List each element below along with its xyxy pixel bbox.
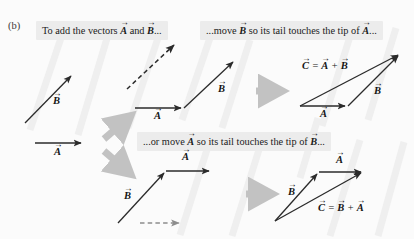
caption-move-b-vector-a: →A — [362, 24, 369, 37]
panel-given-vectors — [25, 76, 81, 143]
caption-move-b: ...move →B so its tail touches the tip o… — [200, 21, 383, 40]
caption-move-b-mid: so its tail touches the tip of — [246, 25, 362, 36]
vector-hat-icon: → — [362, 18, 370, 22]
vector-hat-icon: → — [320, 102, 328, 106]
flow-arrow-branch-down-icon — [104, 151, 126, 170]
vector-hat-icon: → — [321, 54, 329, 58]
flow-arrow-branch-up-icon — [104, 120, 126, 139]
label-b-result-top: →B — [374, 85, 381, 96]
caption-move-b-pre: ...move — [206, 25, 239, 36]
caption-move-b-vector-b: →B — [239, 24, 246, 37]
vector-b-given — [25, 76, 71, 123]
label-a-given: →A — [54, 146, 61, 157]
caption-add-vectors-pre: To add the vectors — [42, 25, 120, 36]
label-a-result-top: →A — [320, 108, 327, 119]
vector-b-original-dashed — [127, 45, 174, 89]
caption-move-a-mid: so its tail touches the tip of — [194, 136, 310, 147]
caption-move-a-vector-b: →B — [310, 135, 317, 148]
vector-hat-icon: → — [147, 18, 155, 22]
vector-hat-icon: → — [53, 89, 61, 93]
label-b-given: →B — [53, 95, 60, 106]
vector-hat-icon: → — [54, 140, 62, 144]
caption-move-a: ...or move →A so its tail touches the ti… — [137, 132, 331, 151]
vector-hat-icon: → — [357, 196, 365, 200]
vector-hat-icon: → — [288, 180, 296, 184]
vector-hat-icon: → — [182, 145, 190, 149]
vector-b-result-top — [348, 56, 398, 106]
panel-label-b: (b) — [8, 20, 20, 31]
caption-add-vectors-vector-a: →A — [120, 24, 127, 37]
caption-add-vectors-mid: and — [127, 25, 147, 36]
vector-hat-icon: → — [302, 54, 310, 58]
vector-hat-icon: → — [120, 18, 128, 22]
vector-hat-icon: → — [124, 184, 132, 188]
vector-hat-icon: → — [154, 104, 162, 108]
vector-hat-icon: → — [239, 18, 247, 22]
label-a-result-bottom: →A — [336, 154, 343, 165]
vector-addition-figure: (b) To add the vectors →A and →B... ...m… — [0, 0, 414, 239]
label-c-equals-a-plus-b: →C = →A + →B — [302, 60, 348, 71]
label-c-equals-b-plus-a: →C = →B + →A — [318, 202, 364, 213]
label-b-mid-top: →B — [218, 83, 225, 94]
caption-move-a-pre: ...or move — [143, 136, 187, 147]
vector-hat-icon: → — [187, 129, 195, 133]
vector-hat-icon: → — [318, 196, 326, 200]
caption-add-vectors-vector-b: →B — [147, 24, 154, 37]
panel-head-to-tail-b-then-a — [118, 171, 209, 223]
vector-hat-icon: → — [337, 196, 345, 200]
vector-hat-icon: → — [218, 77, 226, 81]
label-b-result-bottom: →B — [288, 186, 295, 197]
vector-hat-icon: → — [310, 129, 318, 133]
vector-hat-icon: → — [341, 54, 349, 58]
vector-hat-icon: → — [374, 79, 382, 83]
vector-hat-icon: → — [336, 148, 344, 152]
caption-add-vectors: To add the vectors →A and →B... — [36, 21, 168, 40]
label-b-mid-bottom: →B — [124, 190, 131, 201]
label-a-mid-bottom: →A — [182, 151, 189, 162]
label-a-mid-top: →A — [154, 110, 161, 121]
